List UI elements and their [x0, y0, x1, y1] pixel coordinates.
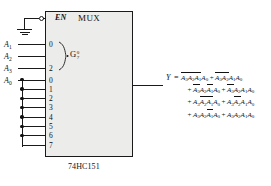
enable-to-ground-wire — [24, 18, 39, 19]
equation-plus-operator: + — [186, 111, 193, 119]
select-input-a3-index: 3 — [9, 68, 12, 74]
mux-block-title: MUX — [78, 14, 100, 23]
data-pin-number-7: 7 — [49, 141, 53, 150]
equation-literal-A0: A0 — [247, 111, 254, 119]
equation-literal-A3: A3 — [193, 111, 200, 119]
equation-literal-A2-inverted: A2 — [200, 96, 207, 108]
equation-literal-A2: A2 — [234, 86, 241, 94]
select-wire-a2 — [18, 56, 45, 57]
data-pin-number-6: 6 — [49, 131, 53, 140]
select-wire-a3 — [18, 68, 45, 69]
equation-literal-A2: A2 — [234, 111, 241, 119]
equation-product-term: A3A2A1A0 — [215, 74, 242, 82]
select-pin-number-top: 0 — [49, 40, 53, 49]
equation-product-term: A3A2A1A0 — [193, 111, 220, 119]
equation-plus-operator: + — [220, 98, 227, 106]
equation-literal-A3-inverted: A3 — [215, 72, 222, 84]
equation-literal-A0: A0 — [247, 86, 254, 94]
equation-literal-A0: A0 — [247, 98, 254, 106]
select-group-range-bottom: 7 — [77, 55, 80, 60]
select-input-label-a2: A2 — [4, 52, 12, 61]
equation-literal-A2-inverted: A2 — [188, 72, 195, 84]
junction-dot-3 — [20, 106, 23, 109]
data-input-wire-4 — [22, 117, 45, 118]
equation-line-4: +A3A2A1A0+A3A2A1A0 — [181, 109, 271, 121]
enable-pin-label: EN — [55, 14, 67, 22]
equation-plus-operator: + — [220, 111, 227, 119]
equation-product-term: A3A2A1A0 — [181, 74, 208, 82]
data-input-a0-index: 0 — [9, 80, 12, 86]
data-pin-number-2: 2 — [49, 94, 53, 103]
data-pin-number-3: 3 — [49, 103, 53, 112]
select-group-range: 07 — [77, 50, 80, 61]
schematic-canvas: MUX EN 74HC151 A1 A2 A3 A0 0 2 G07 01234… — [0, 0, 271, 186]
select-group-g-label: G07 — [70, 50, 79, 61]
equation-line-3: +A3A2A1A0+A3A2A1A0 — [181, 96, 271, 108]
select-group-g-letter: G — [70, 49, 76, 59]
ground-bar-3-icon — [22, 34, 28, 35]
junction-dot-2 — [20, 97, 23, 100]
equation-literal-A2: A2 — [200, 86, 207, 94]
select-pin-number-bottom: 2 — [49, 64, 53, 73]
equation-line-2: +A3A2A1A0+A3A2A1A0 — [181, 84, 271, 96]
data-input-wire-2 — [22, 98, 45, 99]
enable-pin-stub-wire — [43, 18, 46, 19]
ground-bar-1-icon — [17, 29, 32, 30]
junction-dot-0 — [20, 78, 23, 81]
equation-literal-A3-inverted: A3 — [193, 84, 200, 96]
data-pin-number-5: 5 — [49, 122, 53, 131]
equation-product-term: A3A2A1A0 — [227, 86, 254, 94]
junction-dot-1 — [20, 87, 23, 90]
equation-plus-operator: + — [220, 86, 227, 94]
equation-line-1: A3A2A1A0+A3A2A1A0 — [181, 72, 271, 84]
equation-product-term: A3A2A1A0 — [193, 98, 220, 106]
equation-literal-A3-inverted: A3 — [227, 84, 234, 96]
data-pin-number-0: 0 — [49, 76, 53, 85]
junction-dot-5 — [20, 125, 23, 128]
data-input-wire-3 — [22, 107, 45, 108]
select-input-a1-index: 1 — [9, 44, 12, 50]
data-input-label-a0: A0 — [4, 76, 12, 85]
junction-dot-4 — [20, 115, 23, 118]
chip-part-number: 74HC151 — [68, 163, 100, 171]
data-input-wire-0 — [22, 80, 45, 81]
equation-product-term: A3A2A1A0 — [227, 111, 254, 119]
ground-drop-wire — [24, 18, 25, 29]
mux-chip-body — [45, 11, 133, 157]
select-input-a2-index: 2 — [9, 56, 12, 62]
equation-product-term: A3A2A1A0 — [193, 86, 220, 94]
equation-plus-operator: + — [186, 98, 193, 106]
data-input-wire-5 — [22, 126, 45, 127]
equation-literal-A3: A3 — [227, 111, 234, 119]
equation-literal-A3: A3 — [227, 98, 234, 106]
output-equals-sign: = — [174, 74, 179, 82]
output-wire — [133, 85, 163, 86]
select-input-label-a1: A1 — [4, 40, 12, 49]
equation-literal-A2-inverted: A2 — [234, 96, 241, 108]
equation-literal-A2-inverted: A2 — [222, 72, 229, 84]
data-pin-number-1: 1 — [49, 85, 53, 94]
equation-product-term: A3A2A1A0 — [227, 98, 254, 106]
equation-literal-A2: A2 — [200, 111, 207, 119]
output-label-y: Y — [166, 74, 170, 82]
data-input-wire-6 — [22, 135, 45, 136]
data-input-wire-7 — [22, 145, 45, 146]
data-pin-number-4: 4 — [49, 113, 53, 122]
equation-literal-A0: A0 — [235, 74, 242, 82]
equation-plus-operator: + — [186, 86, 193, 94]
ground-bar-2-icon — [20, 32, 30, 33]
select-group-brace-icon — [58, 41, 69, 71]
select-wire-a1 — [18, 44, 45, 45]
data-input-wire-1 — [22, 89, 45, 90]
junction-dot-6 — [20, 134, 23, 137]
equation-literal-A3: A3 — [193, 98, 200, 106]
select-input-label-a3: A3 — [4, 64, 12, 73]
equation-literal-A3-inverted: A3 — [181, 72, 188, 84]
output-boolean-equation: A3A2A1A0+A3A2A1A0+A3A2A1A0+A3A2A1A0+A3A2… — [181, 72, 271, 121]
select-group-range-top: 0 — [77, 50, 80, 55]
